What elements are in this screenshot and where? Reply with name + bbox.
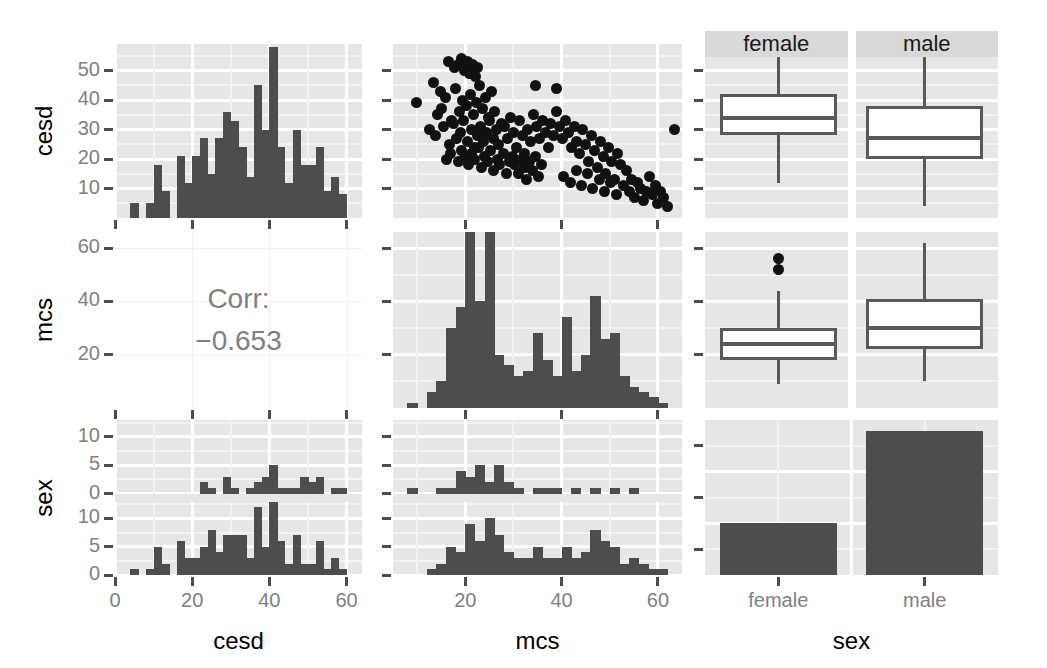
histogram-bar <box>513 488 523 494</box>
x-axis-title-mcs: mcs <box>516 627 560 655</box>
x-tick-label: 40 <box>550 589 572 612</box>
gridline-vertical <box>345 44 348 218</box>
axis-tick <box>104 158 113 161</box>
gridline-vertical <box>345 502 348 576</box>
axis-tick <box>777 577 780 586</box>
panel-mcs-by-sex-facet-histogram <box>393 420 682 575</box>
x-tick-label: 40 <box>258 589 280 612</box>
gridline-horizontal <box>393 422 682 424</box>
gridline-vertical <box>656 420 659 494</box>
y-tick-label-cesd: 40 <box>78 87 100 110</box>
panel-mcs-by-sex-boxplot <box>705 232 998 408</box>
facet-female <box>115 420 362 494</box>
histogram-bar <box>552 488 562 494</box>
axis-tick <box>382 517 391 520</box>
facet-strip-female: female <box>705 31 848 57</box>
gridline-horizontal <box>393 247 682 250</box>
histogram-bar <box>231 488 239 494</box>
x-tick-label: 0 <box>109 589 120 612</box>
y-tick-label-mcs: 40 <box>78 288 100 311</box>
gridline-vertical <box>609 420 611 494</box>
gridline-vertical <box>416 502 418 576</box>
histogram-bar <box>407 403 417 408</box>
scatter-point <box>612 148 623 159</box>
x-tick-label-sex: female <box>748 589 808 612</box>
gridline-horizontal <box>393 300 682 303</box>
boxplot-box <box>866 299 983 350</box>
scatter-point <box>594 174 605 185</box>
panel-cesd-by-sex-boxplot <box>705 44 998 218</box>
axis-tick <box>382 300 391 303</box>
axis-tick <box>694 444 703 447</box>
histogram-bar <box>339 569 347 575</box>
scatter-point <box>501 168 512 179</box>
axis-tick <box>382 187 391 190</box>
gridline-vertical <box>115 502 117 576</box>
y-tick-label-sex: 5 <box>89 452 100 475</box>
y-tick-label-cesd: 30 <box>78 117 100 140</box>
x-tick-label: 60 <box>335 589 357 612</box>
axis-tick <box>382 128 391 131</box>
axis-tick <box>694 496 703 499</box>
axis-tick <box>694 353 703 356</box>
axis-tick <box>268 220 271 229</box>
y-tick-label-sex: 5 <box>89 534 100 557</box>
boxplot-median <box>866 136 983 140</box>
gridline-vertical <box>115 420 117 494</box>
axis-tick <box>191 410 194 419</box>
axis-tick <box>923 577 926 586</box>
facet-male <box>115 502 362 576</box>
y-axis-title-cesd: cesd <box>30 106 58 157</box>
gridline-vertical <box>656 502 659 576</box>
axis-tick <box>464 410 467 419</box>
histogram-bar <box>407 488 417 494</box>
y-tick-label-mcs: 20 <box>78 342 100 365</box>
scatter-point <box>571 165 582 176</box>
axis-tick <box>656 577 659 586</box>
axis-tick <box>382 69 391 72</box>
x-axis-title-sex: sex <box>833 627 870 655</box>
scatter-point <box>536 159 547 170</box>
axis-tick <box>268 577 271 586</box>
boxplot-outlier <box>773 253 784 264</box>
boxplot-median <box>866 326 983 330</box>
y-tick-label-cesd: 50 <box>78 58 100 81</box>
axis-tick <box>104 435 113 438</box>
axis-tick <box>104 545 113 548</box>
gridline-horizontal <box>393 99 682 102</box>
axis-tick <box>114 410 117 419</box>
panel-cesd-vs-mcs-scatter <box>393 44 682 218</box>
gridline-vertical <box>153 420 155 494</box>
gridline-horizontal <box>393 517 682 520</box>
gridline-horizontal <box>393 464 682 467</box>
x-tick-label: 20 <box>454 589 476 612</box>
gridline-horizontal <box>393 55 682 57</box>
axis-tick <box>191 577 194 586</box>
x-axis-title-cesd: cesd <box>213 627 264 655</box>
facet-separator <box>848 232 856 408</box>
axis-tick <box>656 410 659 419</box>
axis-tick <box>104 300 113 303</box>
facet-strip-male: male <box>856 31 999 57</box>
y-tick-label-sex: 10 <box>78 505 100 528</box>
gridline-vertical <box>416 420 418 494</box>
boxplot-box <box>866 106 983 159</box>
facet-separator <box>848 44 856 218</box>
axis-tick <box>560 410 563 419</box>
y-tick-label-sex: 10 <box>78 424 100 447</box>
scatter-point <box>411 97 422 108</box>
panel-cesd-histogram <box>115 44 362 218</box>
axis-tick <box>382 574 391 577</box>
boxplot-median <box>720 342 837 346</box>
y-tick-label-cesd: 10 <box>78 176 100 199</box>
gridline-vertical <box>416 44 418 218</box>
correlation-annotation: Corr:−0.653 <box>115 232 362 408</box>
histogram-bar <box>610 488 620 494</box>
scatter-point <box>533 171 544 182</box>
gridline-vertical <box>345 420 348 494</box>
gridline-vertical <box>416 232 418 408</box>
gridline-vertical <box>656 232 659 408</box>
histogram-bar <box>339 194 347 218</box>
axis-tick <box>694 247 703 250</box>
facet-female <box>393 420 682 494</box>
